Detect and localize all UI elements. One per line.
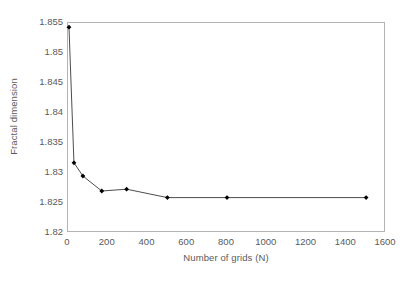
x-tick-label: 1200 bbox=[295, 237, 316, 247]
y-tick-label: 1.855 bbox=[25, 17, 63, 27]
x-tick-label: 600 bbox=[178, 237, 194, 247]
data-point-marker bbox=[124, 187, 129, 192]
fractal-dimension-chart: Fractal dimension 1.821.8251.831.8351.84… bbox=[0, 0, 412, 282]
data-point-marker bbox=[225, 195, 230, 200]
x-axis-tick-labels: 02004006008001000120014001600 bbox=[0, 237, 412, 251]
data-series-layer bbox=[68, 23, 386, 233]
x-axis-title: Number of grids (N) bbox=[67, 252, 385, 263]
x-tick-label: 200 bbox=[99, 237, 115, 247]
series-line bbox=[69, 27, 366, 197]
y-axis-title-text: Fractal dimension bbox=[8, 78, 19, 155]
y-tick-label: 1.84 bbox=[25, 107, 63, 117]
y-tick-label: 1.835 bbox=[25, 137, 63, 147]
y-tick-label: 1.83 bbox=[25, 167, 63, 177]
series-markers bbox=[67, 25, 369, 200]
x-tick-label: 0 bbox=[64, 237, 69, 247]
data-point-marker bbox=[67, 25, 72, 30]
y-tick-label: 1.825 bbox=[25, 197, 63, 207]
y-tick-label: 1.845 bbox=[25, 77, 63, 87]
x-tick-label: 1400 bbox=[335, 237, 356, 247]
data-point-marker bbox=[165, 195, 170, 200]
y-tick-label: 1.85 bbox=[25, 47, 63, 57]
x-tick-label: 400 bbox=[139, 237, 155, 247]
data-point-marker bbox=[364, 195, 369, 200]
y-tick-label: 1.82 bbox=[25, 227, 63, 237]
x-tick-label: 1000 bbox=[255, 237, 276, 247]
x-tick-label: 1600 bbox=[374, 237, 395, 247]
x-tick-label: 800 bbox=[218, 237, 234, 247]
plot-area bbox=[67, 22, 385, 232]
